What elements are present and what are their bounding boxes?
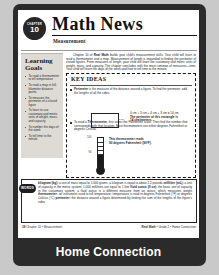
page-footer-brand: Real Math [142,225,156,229]
page-footer-left: 38 Chapter 10 • Measurement [22,225,62,229]
page-header: CHAPTER 10 Math News Measurement [21,14,197,50]
intro-paragraph: Chapter 10 of Real Math builds your chil… [66,54,196,72]
chapter-badge-number: 10 [23,26,46,34]
key-idea-thermometer-text: To read a Thermometer, first select the … [74,121,191,132]
page-footer: 38 Chapter 10 • Measurement Real Math • … [21,225,197,233]
thermometer-reading-label: 90 [89,151,92,154]
page-footer-right: Real Math • Grade 2 • Home Connection [142,225,196,229]
key-ideas-title: KEY IDEAS [71,76,106,82]
key-idea-perimeter: Perimeter is the measure of the distance… [74,88,191,95]
page-title: Math News [52,14,143,34]
header-divider [21,50,197,51]
thermometer-top-label: 100 [87,136,91,139]
key-idea-perimeter-definition: is the measure of the distance around a … [74,87,187,95]
list-item: To tell time to the minute [25,135,60,142]
learning-goals-list: To read a thermometer to tell temperatur… [21,75,63,142]
newsletter-page: CHAPTER 10 Math News Measurement Learnin… [18,10,199,238]
thermometer-tick [98,142,103,143]
vocabulary-entries: kilogram (kg): a unit of mass equal to 1… [38,182,192,205]
list-item: To read a map in full-kilometer distance… [25,84,60,95]
page-number: 38 [22,225,25,229]
key-idea-perimeter-text: Perimeter is the measure of the distance… [74,88,191,95]
page-footer-chapter: Chapter 10 • Measurement [26,225,62,229]
page-footer-meta: • Grade 2 • Home Connection [156,225,196,229]
thermometer-tube [97,137,104,169]
vocabulary-box: WORDS kilogram (kg): a unit of mass equa… [21,179,197,223]
document-viewer: CHAPTER 10 Math News Measurement Learnin… [0,0,219,275]
document-viewport[interactable]: CHAPTER 10 Math News Measurement Learnin… [18,10,199,238]
intro-text-after: builds your child's measurement skills. … [66,53,196,71]
list-item: To number the days of the week [25,126,60,133]
learning-goals-panel: Learning Goals To read a thermometer to … [21,53,63,158]
page-subtitle: Measurement [53,38,86,44]
thermometer-tick [98,146,103,147]
key-ideas-box: KEY IDEAS Perimeter is the measure of th… [66,73,196,178]
thermometer-tick [98,150,103,151]
key-idea-thermometer: To read a Thermometer, first select the … [74,121,191,132]
thermometer-caption-line2: 90 degrees Fahrenheit (90°F). [109,141,152,145]
key-ideas-divider [70,85,192,86]
list-item: To learn to use customary and metric uni… [25,109,60,123]
thermometer-caption: This thermometer reads 90 degrees Fahren… [109,138,181,145]
vocabulary-term: perimeter: [56,196,71,200]
viewer-caption: Home Connection [18,242,199,262]
list-item: To read a thermometer to tell temperatur… [25,75,60,82]
vocabulary-badge-label: WORDS [19,184,36,193]
learning-goals-title: Learning Goals [25,58,63,73]
vocabulary-badge: WORDS [19,184,36,193]
thermometer-figure: 100 90 This thermometer reads 90 [83,136,189,172]
thermometer-bulb [96,166,105,175]
list-item: To measure the perimeter of a closed fig… [25,97,60,108]
chapter-badge: CHAPTER 10 [23,17,46,40]
title-divider [52,35,197,36]
device-frame: CHAPTER 10 Math News Measurement Learnin… [13,4,206,266]
